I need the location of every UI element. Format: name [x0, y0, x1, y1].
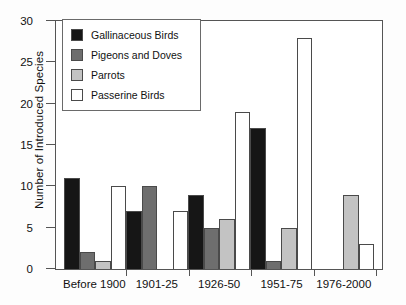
- bar: [64, 178, 80, 269]
- legend-item: Pigeons and Doves: [71, 45, 194, 65]
- bar-group: [312, 21, 374, 269]
- bar: [111, 186, 127, 269]
- x-axis-tick: [126, 269, 127, 276]
- bar: [80, 252, 96, 269]
- x-axis-category-label: 1951-75: [250, 278, 312, 290]
- bar: [281, 228, 297, 269]
- bar: [126, 211, 142, 269]
- y-axis-tick-label: 20: [20, 98, 33, 110]
- y-axis-tick-label: 30: [20, 15, 33, 27]
- bar: [297, 38, 313, 269]
- y-axis-tick-label: 25: [20, 56, 33, 68]
- bar: [343, 195, 359, 269]
- bar: [235, 112, 251, 269]
- y-axis-tick: 5: [46, 227, 56, 228]
- chart-legend: Gallinaceous BirdsPigeons and DovesParro…: [62, 19, 201, 111]
- x-axis-tick-labels: Before 19001901-251926-501951-751976-200…: [55, 278, 383, 290]
- bar: [219, 219, 235, 269]
- legend-swatch-icon: [71, 89, 83, 101]
- legend-swatch-icon: [71, 29, 83, 41]
- legend-item: Passerine Birds: [71, 85, 194, 105]
- chart-figure: Number of Introduced Species 05101520253…: [0, 0, 406, 305]
- legend-swatch-icon: [71, 49, 83, 61]
- bar: [95, 261, 111, 269]
- bar-group: [250, 21, 312, 269]
- y-axis-tick: 15: [46, 144, 56, 145]
- y-axis-tick: 25: [46, 61, 56, 62]
- y-axis-tick-label: 5: [27, 222, 33, 234]
- y-axis-tick: 10: [46, 185, 56, 186]
- x-axis-category-label: 1976-2000: [313, 278, 375, 290]
- legend-item: Parrots: [71, 65, 194, 85]
- x-axis-tick: [314, 269, 315, 276]
- y-axis-tick-label: 15: [20, 139, 33, 151]
- bar: [250, 128, 266, 269]
- legend-label: Pigeons and Doves: [91, 49, 182, 61]
- x-axis-category-label: Before 1900: [63, 278, 126, 290]
- y-axis-tick-label: 10: [20, 180, 33, 192]
- legend-item: Gallinaceous Birds: [71, 25, 194, 45]
- bar: [142, 186, 158, 269]
- bar: [266, 261, 282, 269]
- y-axis-tick: 30: [46, 20, 56, 21]
- x-axis-tick: [376, 269, 377, 276]
- bar: [359, 244, 375, 269]
- y-axis-tick: 20: [46, 103, 56, 104]
- x-axis-category-label: 1901-25: [126, 278, 188, 290]
- legend-label: Gallinaceous Birds: [91, 29, 179, 41]
- legend-swatch-icon: [71, 69, 83, 81]
- x-axis-category-label: 1926-50: [188, 278, 250, 290]
- x-axis-tick: [189, 269, 190, 276]
- y-axis-tick-label: 0: [27, 263, 33, 275]
- x-axis-tick: [251, 269, 252, 276]
- bar: [188, 195, 204, 269]
- legend-label: Passerine Birds: [91, 89, 165, 101]
- y-axis-tick: 0: [46, 268, 56, 269]
- bar: [173, 211, 189, 269]
- bar: [204, 228, 220, 269]
- legend-label: Parrots: [91, 69, 125, 81]
- y-axis-title: Number of Introduced Species: [33, 5, 45, 255]
